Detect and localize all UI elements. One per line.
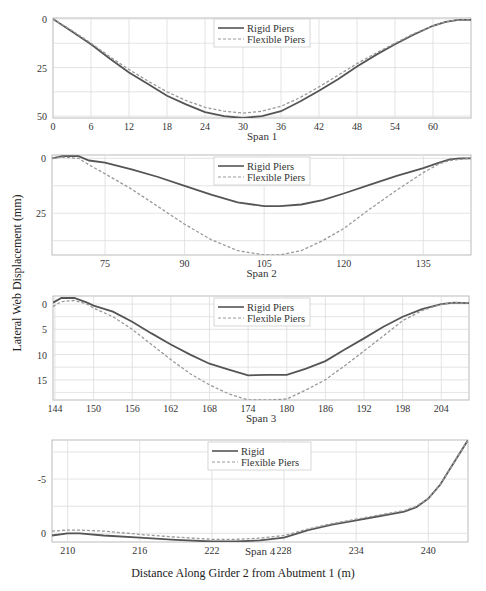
x-axis-label: Distance Along Girder 2 from Abutment 1 … (0, 566, 486, 581)
x-tick-label: 24 (200, 121, 210, 132)
x-tick-label: 210 (60, 545, 75, 556)
span-label: Span 3 (246, 412, 277, 424)
x-tick-label: 144 (47, 403, 62, 414)
legend-label: Flexible Piers (247, 34, 305, 45)
x-tick-label: 192 (357, 403, 372, 414)
y-tick-label: 0 (42, 299, 47, 310)
y-tick-label: 50 (37, 111, 47, 122)
span-label: Span 2 (246, 267, 276, 279)
legend: Rigid PiersFlexible Piers (214, 19, 310, 47)
y-tick-label: 15 (37, 375, 47, 386)
x-tick-label: 54 (390, 121, 400, 132)
x-tick-label: 48 (352, 121, 362, 132)
cropped-caption-fragment (0, 0, 260, 1)
y-tick-label: 10 (37, 350, 47, 361)
x-tick-label: 216 (132, 545, 147, 556)
y-tick-label: 5 (42, 324, 47, 335)
chart-panel-3: 144150156162168174180186192198204051015R… (37, 296, 469, 424)
x-tick-label: 60 (428, 121, 438, 132)
legend-label: Rigid (241, 446, 265, 457)
y-tick-label: -5 (38, 474, 46, 485)
x-tick-label: 135 (416, 258, 431, 269)
x-tick-label: 222 (204, 545, 219, 556)
span-label: Span 4 (245, 545, 276, 557)
x-tick-label: 186 (318, 403, 333, 414)
x-tick-label: 6 (89, 121, 94, 132)
legend-label: Rigid Piers (247, 302, 294, 313)
span-label: Span 1 (247, 130, 277, 142)
legend-label: Rigid Piers (247, 23, 294, 34)
x-tick-label: 198 (395, 403, 410, 414)
x-tick-label: 12 (124, 121, 134, 132)
x-tick-label: 120 (336, 258, 351, 269)
y-tick-label: 25 (37, 63, 47, 74)
x-tick-label: 240 (421, 545, 436, 556)
y-tick-label: 0 (42, 14, 47, 25)
legend-label: Flexible Piers (241, 457, 299, 468)
x-tick-label: 150 (86, 403, 101, 414)
legend-label: Flexible Piers (247, 313, 305, 324)
y-axis-label: Lateral Web Displacement (mm) (10, 194, 25, 351)
y-tick-label: 25 (36, 208, 46, 219)
x-tick-label: 234 (349, 545, 364, 556)
chart-panel-1: 0612182430364248546002550Rigid PiersFlex… (37, 14, 471, 142)
x-tick-label: 42 (314, 121, 324, 132)
x-tick-label: 228 (277, 545, 292, 556)
chart-panel-4: 210216222228234240-50RigidFlexible Piers… (38, 440, 468, 557)
y-tick-label: 0 (41, 153, 46, 164)
legend: RigidFlexible Piers (208, 442, 311, 470)
x-tick-label: 75 (100, 258, 110, 269)
x-tick-label: 18 (162, 121, 172, 132)
x-tick-label: 204 (434, 403, 449, 414)
x-tick-label: 162 (163, 403, 178, 414)
x-tick-label: 36 (276, 121, 286, 132)
legend: Rigid PiersFlexible Piers (214, 298, 310, 326)
x-tick-label: 168 (202, 403, 217, 414)
x-tick-label: 0 (51, 121, 56, 132)
y-tick-label: 0 (41, 528, 46, 539)
legend: Rigid PiersFlexible Piers (214, 157, 310, 185)
legend-label: Flexible Piers (247, 172, 305, 183)
x-tick-label: 90 (180, 258, 190, 269)
chart-panel-2: 7590105120135025Rigid PiersFlexible Pier… (36, 153, 471, 279)
x-tick-label: 156 (125, 403, 140, 414)
figure-canvas: 0612182430364248546002550Rigid PiersFlex… (0, 0, 486, 591)
legend-label: Rigid Piers (247, 161, 294, 172)
x-tick-label: 180 (279, 403, 294, 414)
